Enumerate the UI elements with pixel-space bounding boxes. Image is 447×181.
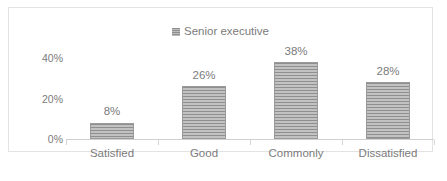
bar-value-label: 28% (376, 66, 399, 78)
bar[interactable] (90, 123, 134, 139)
bar-group: 28% (342, 48, 434, 139)
bar-group: 8% (66, 48, 158, 139)
bar[interactable] (366, 82, 410, 139)
y-axis: 0%20%40% (23, 48, 63, 140)
chart-legend: Senior executive (9, 26, 432, 38)
x-axis-tick-label: Satisfied (66, 148, 158, 160)
bar-value-label: 38% (284, 46, 307, 58)
bar-series-senior-executive: 8%26%38%28% (66, 48, 434, 139)
bar-group: 26% (158, 48, 250, 139)
x-axis-tick-label: Good (158, 148, 250, 160)
y-axis-tick-label: 20% (42, 94, 63, 105)
legend-series-label: Senior executive (184, 26, 269, 38)
y-axis-tick-label: 0% (48, 134, 63, 145)
x-axis-tick (342, 140, 343, 145)
bar[interactable] (182, 86, 226, 139)
x-axis-tick-label: Commonly (250, 148, 342, 160)
x-axis-tick (434, 140, 435, 145)
bar-value-label: 8% (104, 106, 121, 118)
bar-value-label: 26% (192, 70, 215, 82)
y-axis-tick-label: 40% (42, 53, 63, 64)
x-axis-tick (158, 140, 159, 145)
x-axis-tick (66, 140, 67, 145)
chart-frame: Senior executive 0%20%40% 8%26%38%28% Sa… (8, 7, 433, 152)
bar-group: 38% (250, 48, 342, 139)
x-axis-category-labels: SatisfiedGoodCommonlyDissatisfied (66, 148, 434, 164)
x-axis-tick (250, 140, 251, 145)
legend-swatch-icon (172, 28, 180, 36)
x-axis-tick-label: Dissatisfied (342, 148, 434, 160)
bar[interactable] (274, 62, 318, 139)
